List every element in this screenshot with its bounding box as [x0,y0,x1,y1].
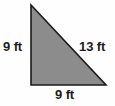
geometry-figure: 9 ft 13 ft 9 ft [0,0,115,106]
left-leg-length-label: 9 ft [3,40,22,54]
hypotenuse-length-label: 13 ft [79,40,105,54]
bottom-leg-length-label: 9 ft [55,88,74,102]
